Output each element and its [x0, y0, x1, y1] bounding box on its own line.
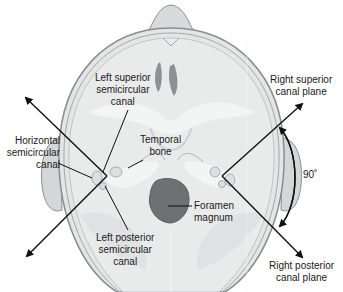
label-left-posterior-canal: Left posterior semicircular canal: [96, 232, 154, 268]
foramen-magnum: [149, 179, 189, 224]
label-right-superior-plane: Right superior canal plane: [270, 74, 332, 98]
label-horizontal-canal: Horizontal semicircular canal: [5, 135, 60, 171]
diagram-figure: Left superior semicircular canal Horizon…: [0, 0, 343, 292]
label-left-superior-canal: Left superior semicircular canal: [95, 72, 151, 108]
label-angle-90: 90˚: [303, 169, 317, 181]
label-temporal-bone: Temporal bone: [140, 134, 181, 158]
label-foramen-magnum: Foramen magnum: [194, 200, 234, 224]
label-right-posterior-plane: Right posterior canal plane: [269, 260, 334, 284]
